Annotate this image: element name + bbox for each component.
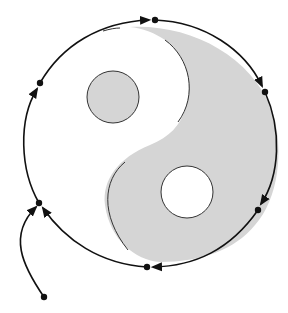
lower-eye-circle [161,166,213,218]
orbit-point-right [262,89,268,95]
orbit-arc-left [24,89,39,203]
orbit-entry-path [20,207,44,297]
orbit-point-top [152,17,158,23]
yin-yang-diagram [0,0,288,313]
orbit-point-right-lower [255,207,261,213]
orbit-point-left-upper [37,80,43,86]
orbit-point-left-lower [36,200,42,206]
upper-eye-circle [87,71,139,123]
orbit-arc-top-left [40,20,149,83]
orbit-point-bottom [144,264,150,270]
orbit-point-start [41,294,47,300]
shaded-region [105,27,279,262]
diagram-svg [0,0,288,313]
